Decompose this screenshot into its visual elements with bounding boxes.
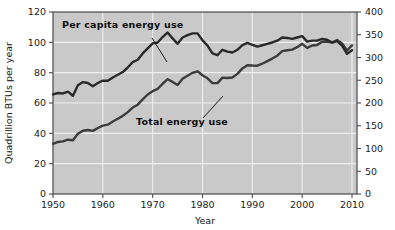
x-axis-title: Year (194, 215, 215, 226)
x-tick-label: 1950 (41, 199, 65, 210)
y-tick-label-right: 350 (365, 29, 383, 40)
x-tick-label: 1990 (240, 199, 264, 210)
y-tick-label-right: 50 (365, 166, 377, 177)
x-tick-label: 1970 (141, 199, 165, 210)
y-tick-label-right: 150 (365, 120, 383, 131)
y-axis-title: Quadrillion BTUs per year (3, 42, 14, 164)
chart-figure: 0204060801001200501001502002503003504001… (0, 0, 395, 230)
series-annotation-1: Total energy use (136, 116, 228, 127)
y-tick-label-left: 120 (28, 6, 46, 17)
x-tick-label: 2000 (290, 199, 314, 210)
y-tick-label-right: 0 (365, 188, 371, 199)
y-tick-label-left: 100 (28, 37, 46, 48)
y-tick-label-right: 400 (365, 6, 383, 17)
y-tick-label-left: 60 (34, 97, 46, 108)
x-tick-label: 1980 (190, 199, 214, 210)
y-tick-label-right: 300 (365, 52, 383, 63)
x-tick-label: 2010 (340, 199, 364, 210)
series-annotation-0: Per capita energy use (62, 19, 183, 30)
y-tick-label-left: 0 (40, 188, 46, 199)
y-tick-label-left: 20 (34, 158, 46, 169)
chart-svg: 0204060801001200501001502002503003504001… (0, 0, 395, 230)
y-tick-label-left: 40 (34, 128, 46, 139)
y-tick-label-right: 250 (365, 75, 383, 86)
x-tick-label: 1960 (91, 199, 115, 210)
y-tick-label-left: 80 (34, 67, 46, 78)
y-tick-label-right: 200 (365, 97, 383, 108)
y-tick-label-right: 100 (365, 143, 383, 154)
